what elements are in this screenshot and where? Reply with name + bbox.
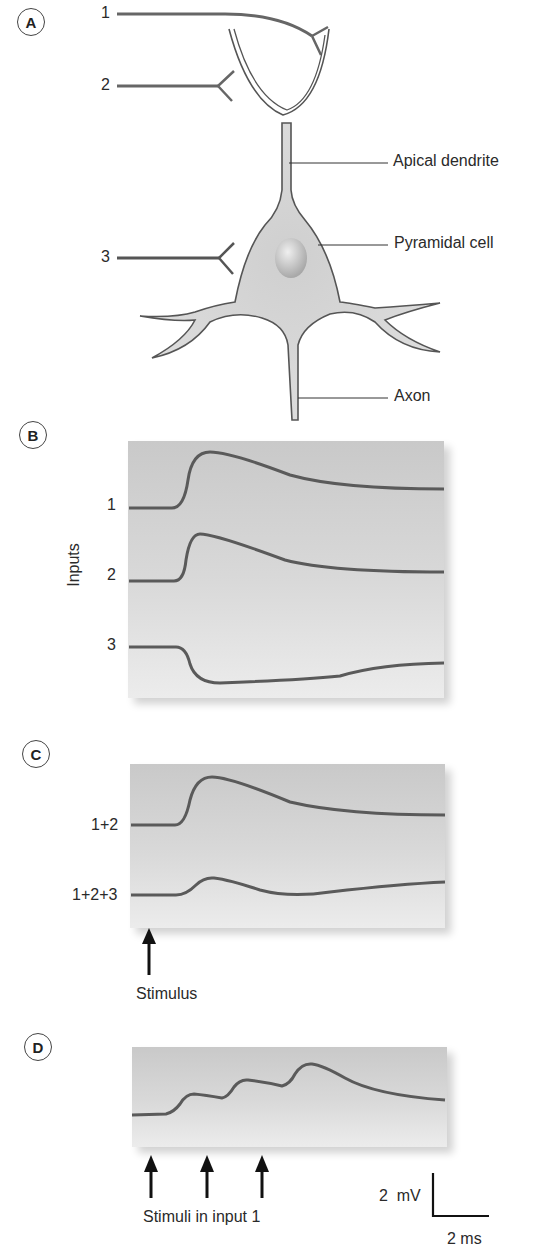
scale-time-label: 2 ms: [447, 1230, 482, 1248]
trace-temporal-summation: [132, 1064, 445, 1115]
trace-input-2: [129, 534, 444, 581]
trace-input-3: [129, 647, 444, 683]
neuron-diagram: [0, 0, 533, 420]
trace-1plus2plus3: [131, 878, 445, 895]
input-1-axon: [117, 14, 312, 36]
panel-d-traces: [0, 1000, 533, 1260]
panel-b-traces: [0, 410, 533, 710]
scale-voltage-label: 2 mV: [379, 1187, 421, 1205]
nucleus: [275, 238, 307, 278]
trace-input-1: [129, 452, 444, 508]
pyramidal-cell-label: Pyramidal cell: [394, 234, 494, 252]
axon-label: Axon: [394, 387, 430, 405]
stimulus-arrow-icon: [142, 928, 156, 975]
input-2-terminal-icon: [218, 71, 234, 101]
trace-1plus2: [131, 777, 445, 825]
input-3-terminal-icon: [219, 243, 234, 274]
scale-bar-icon: [433, 1173, 489, 1216]
stimulus-arrow-1-icon: [144, 1155, 158, 1198]
stimulus-arrow-3-icon: [255, 1155, 269, 1198]
stimuli-label: Stimuli in input 1: [143, 1208, 260, 1226]
apical-dendrite-label: Apical dendrite: [393, 152, 499, 170]
stimulus-arrow-2-icon: [200, 1155, 214, 1198]
panel-c-traces: [0, 720, 533, 1010]
